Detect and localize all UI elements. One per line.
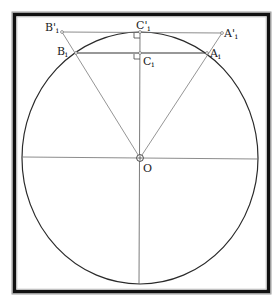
label-c: Ci	[143, 55, 154, 69]
label-b: Bi	[57, 45, 68, 59]
point-b	[75, 52, 78, 55]
label-a: Ai	[209, 47, 221, 61]
label-b-prime: B'i	[45, 21, 59, 35]
point-a-prime	[221, 32, 224, 35]
right-angle-mark-c	[134, 54, 140, 59]
frame	[12, 12, 271, 294]
tangent-line	[62, 32, 222, 33]
center-o-marker	[137, 155, 144, 162]
top-arc	[72, 37, 210, 60]
geometry-diagram: B'i C'i A'i Bi Ci Ai O	[0, 0, 278, 306]
ray-o-b-prime	[62, 32, 140, 158]
point-c	[139, 52, 142, 55]
point-b-prime	[61, 31, 64, 34]
label-a-prime: A'i	[223, 27, 238, 41]
point-a	[206, 52, 209, 55]
right-angle-mark-c-prime	[134, 33, 140, 38]
label-o: O	[143, 162, 152, 175]
label-c-prime: C'i	[136, 19, 150, 33]
